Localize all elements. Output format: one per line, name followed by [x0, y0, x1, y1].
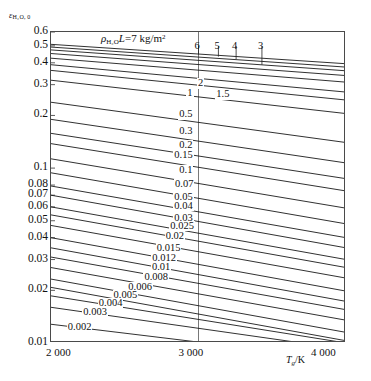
- curve-label: 0.5: [178, 109, 193, 120]
- annotation-rho-subscript: H₂O: [106, 38, 119, 46]
- y-tick-label: 0.1: [2, 161, 48, 173]
- data-curve: [51, 119, 344, 163]
- data-curve: [51, 173, 344, 224]
- data-curve: [51, 257, 344, 310]
- y-tick-label: 0.5: [2, 39, 48, 51]
- curve-label: 1.5: [215, 89, 230, 100]
- curve-label: 0.15: [173, 150, 193, 161]
- curve-label: 0.04: [173, 201, 193, 212]
- curve-label: 0.07: [174, 179, 194, 190]
- y-tick-label: 0.3: [2, 78, 48, 90]
- y-tick-label: 0.05: [2, 214, 48, 226]
- annotation-rho-value: =7 kg/m: [125, 32, 162, 44]
- chart-figure: εH₂O, 0 0.60.50.40.30.20.10.080.070.060.…: [0, 0, 371, 381]
- data-curve: [51, 296, 344, 341]
- curve-label: 0.3: [178, 126, 193, 137]
- y-tick-label: 0.06: [2, 200, 48, 212]
- annotation-rho-label: ρH₂OL=7 kg/m2: [101, 32, 166, 46]
- curve-label: 4: [232, 41, 237, 52]
- y-tick-label: 0.01: [2, 336, 48, 348]
- x-tick-label: 4 000: [311, 346, 336, 358]
- data-curve: [51, 186, 344, 238]
- curve-label: 5: [214, 41, 219, 52]
- y-tick-label: 0.04: [2, 231, 48, 243]
- x-tick-label: 3 000: [179, 346, 204, 358]
- y-tick-label: 0.02: [2, 283, 48, 295]
- curve-label: 0.1: [178, 165, 193, 176]
- y-tick-label: 0.07: [2, 188, 48, 200]
- curve-label: 0.002: [67, 322, 93, 333]
- x-tick-label: 2 000: [46, 346, 71, 358]
- y-tick-label: 0.03: [2, 253, 48, 265]
- x-axis-title-unit: /K: [295, 354, 305, 365]
- curve-label: 6: [195, 41, 200, 52]
- y-tick-label: 0.2: [2, 108, 48, 120]
- curve-label: 0.003: [82, 307, 108, 318]
- data-curve: [51, 215, 344, 268]
- curve-label: 0.02: [165, 231, 185, 242]
- data-curve: [51, 195, 344, 248]
- curve-label: 1: [186, 88, 193, 99]
- y-tick-label: 0.6: [2, 25, 48, 37]
- curve-label: 2: [197, 78, 204, 89]
- y-tick-label: 0.4: [2, 56, 48, 68]
- y-axis-tick-labels: 0.60.50.40.30.20.10.080.070.060.050.040.…: [0, 0, 48, 381]
- data-curve: [51, 144, 344, 191]
- x-axis-title: Tg/K: [286, 354, 305, 367]
- curve-label: 3: [258, 41, 263, 52]
- annotation-rho-exponent: 2: [162, 33, 166, 41]
